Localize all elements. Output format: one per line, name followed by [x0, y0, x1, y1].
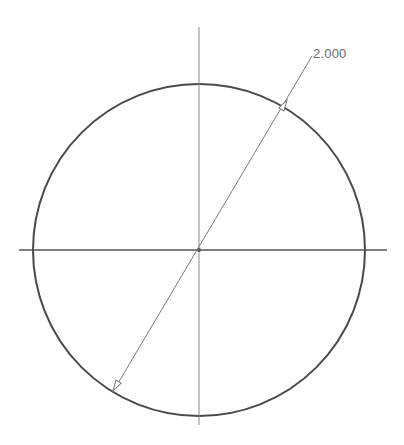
sketch-canvas[interactable]	[0, 0, 404, 445]
diameter-dimension-label[interactable]: 2.000	[313, 46, 347, 61]
